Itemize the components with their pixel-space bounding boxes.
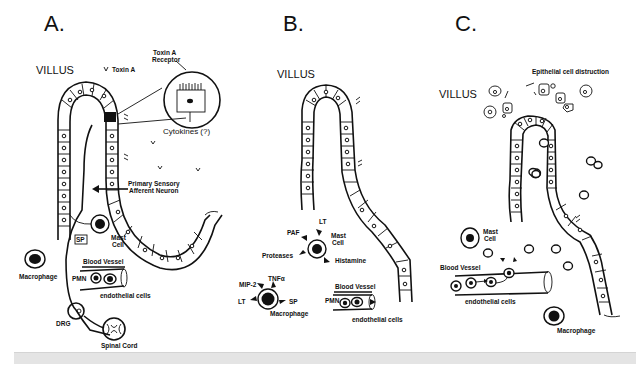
- svg-text:endothelial cells: endothelial cells: [352, 316, 403, 323]
- svg-text:TNFα: TNFα: [268, 275, 285, 282]
- svg-text:LT: LT: [238, 298, 245, 305]
- panel-c-blood-vessel: Blood Vessel endothelial cells: [440, 257, 552, 305]
- panel-b-mast-cell: LT PAF Mast Cell Proteases Histamine: [262, 218, 366, 264]
- cytokines-label: Cytokines (?): [163, 127, 210, 136]
- epithelial-destruction-label: Epithelial cell distruction: [532, 68, 609, 76]
- primary-sensory-neuron: Primary Sensory Afferent Neuron SP: [66, 125, 180, 335]
- panel-b-blood-vessel: Blood Vessel PMN endothelial cells: [325, 283, 403, 323]
- panel-a-spinal-cord: Spinal Cord: [84, 316, 138, 350]
- svg-text:Histamine: Histamine: [335, 257, 366, 264]
- panel-c-mast-cell: Mast Cell: [461, 228, 499, 248]
- svg-text:DRG: DRG: [56, 320, 70, 327]
- panel-a-letter: A.: [44, 11, 65, 36]
- panel-c-villus-label: VILLUS: [439, 88, 477, 100]
- svg-text:LT: LT: [319, 218, 326, 225]
- svg-text:Toxin A: Toxin A: [153, 49, 176, 56]
- panel-a-villus-label: VILLUS: [36, 64, 74, 76]
- panel-a-mast-cell: Mast Cell: [91, 215, 127, 248]
- toxin-glyph-icon: [104, 67, 108, 71]
- svg-text:Blood Vessel: Blood Vessel: [440, 264, 481, 271]
- svg-text:Blood Vessel: Blood Vessel: [83, 258, 124, 265]
- footer-strip: [14, 352, 636, 364]
- panel-c-letter: C.: [455, 11, 477, 36]
- toxin-a-legend: Toxin A: [104, 66, 135, 73]
- svg-text:Mast: Mast: [483, 228, 499, 235]
- svg-text:PAF: PAF: [287, 229, 300, 236]
- toxin-particles: [356, 97, 360, 104]
- panel-c: C. VILLUS Epithelial cell distruction: [439, 11, 620, 335]
- svg-text:Cell: Cell: [332, 239, 344, 246]
- sp-box-label: SP: [76, 236, 85, 243]
- sloughed-epithelial-cells: [484, 83, 592, 118]
- panel-c-macrophage: Macrophage: [544, 307, 596, 335]
- panel-c-villus: [509, 116, 620, 317]
- receptor-magnifier: Toxin A Receptor Cytokines (?): [118, 49, 220, 136]
- svg-text:SP: SP: [289, 298, 298, 305]
- svg-text:Toxin A: Toxin A: [112, 66, 135, 73]
- svg-text:Afferent Neuron: Afferent Neuron: [129, 187, 179, 194]
- svg-text:Macrophage: Macrophage: [19, 273, 58, 281]
- svg-text:Mast: Mast: [331, 232, 347, 239]
- arrow-icon: [316, 229, 322, 236]
- toxin-bound-cell: [104, 112, 116, 122]
- svg-text:Mast: Mast: [111, 234, 127, 241]
- arrow-left-icon: [92, 185, 99, 193]
- svg-text:PMN: PMN: [72, 275, 87, 282]
- svg-text:Cell: Cell: [484, 235, 496, 242]
- svg-text:Cell: Cell: [112, 241, 124, 248]
- panel-b-letter: B.: [283, 11, 304, 36]
- svg-text:endothelial cells: endothelial cells: [465, 298, 516, 305]
- svg-text:Spinal Cord: Spinal Cord: [101, 342, 138, 350]
- svg-text:endothelial cells: endothelial cells: [100, 292, 151, 299]
- svg-text:Receptor: Receptor: [152, 56, 181, 64]
- svg-text:MIP-2: MIP-2: [239, 281, 257, 288]
- svg-text:Macrophage: Macrophage: [557, 327, 596, 335]
- svg-text:PMN: PMN: [325, 297, 340, 304]
- panel-b-macrophage: MIP-2 TNFα LT SP Macrophage: [238, 275, 309, 318]
- panel-a-macrophage: Macrophage: [19, 250, 58, 281]
- panel-a: A. VILLUS Toxin A: [19, 11, 222, 350]
- svg-text:Macrophage: Macrophage: [270, 310, 309, 318]
- panel-a-blood-vessel: Blood Vessel PMN endothelial cells: [72, 258, 151, 299]
- svg-text:Proteases: Proteases: [262, 252, 293, 259]
- panel-b-villus: [301, 85, 412, 302]
- panel-b: B. VILLUS: [238, 11, 412, 323]
- svg-text:Blood Vessel: Blood Vessel: [335, 283, 376, 290]
- panel-b-villus-label: VILLUS: [277, 68, 315, 80]
